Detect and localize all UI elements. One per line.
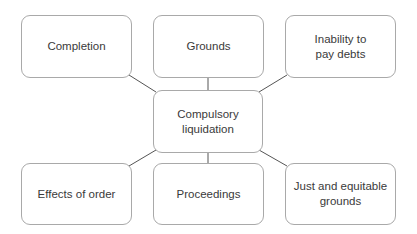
node-completion: Completion [21,15,132,78]
mind-map-diagram: Completion Grounds Inability to pay debt… [0,0,417,234]
node-grounds: Grounds [153,15,264,78]
node-effects-of-order: Effects of order [21,163,132,225]
node-label: Grounds [186,39,230,54]
connector-effects [129,150,156,166]
node-proceedings: Proceedings [153,163,264,225]
node-label-line1: Inability to [315,32,367,47]
connector-inability [259,75,287,92]
node-label-line2: grounds [294,194,387,209]
center-label-line2: liquidation [177,122,238,137]
node-inability-to-pay-debts: Inability to pay debts [285,15,396,78]
node-just-and-equitable-grounds: Just and equitable grounds [285,163,396,225]
node-label-line1: Just and equitable [294,179,387,194]
node-label: Completion [47,39,105,54]
node-label: Proceedings [177,187,241,202]
node-label: Effects of order [38,187,116,202]
node-compulsory-liquidation: Compulsory liquidation [153,90,263,153]
node-label-line2: pay debts [315,47,367,62]
center-label-line1: Compulsory [177,107,238,122]
connector-completion [129,75,156,92]
connector-just [259,150,287,166]
